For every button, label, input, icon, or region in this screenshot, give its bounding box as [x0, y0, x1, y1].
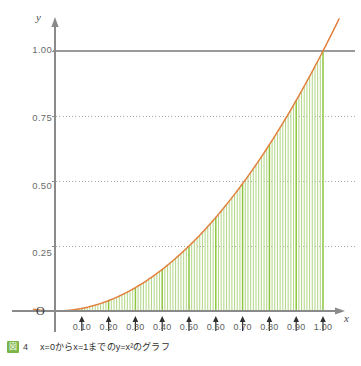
- x-axis-label: x: [344, 312, 349, 324]
- x-tick-label-0.40: 0.40: [147, 322, 177, 332]
- x-tick-label-0.60: 0.60: [201, 322, 231, 332]
- y-tick-label-025: 0.25: [18, 247, 52, 258]
- figure-number: 4: [23, 342, 28, 352]
- chart-plot-area: [0, 0, 361, 336]
- x-tick-label-1.00: 1.00: [308, 322, 338, 332]
- x-tick-label-0.30: 0.30: [120, 322, 150, 332]
- figure-caption-text: x=0からx=1までのy=x²のグラフ: [40, 340, 170, 353]
- figure-container: 1.00 0.75 0.50 0.25 y x O 0.100.200.300.…: [0, 0, 361, 366]
- figure-caption: 図 4 x=0からx=1までのy=x²のグラフ: [7, 340, 170, 354]
- x-tick-label-0.80: 0.80: [254, 322, 284, 332]
- y-axis-label: y: [36, 11, 41, 23]
- y-tick-label-050: 0.50: [18, 180, 52, 191]
- y-tick-label-1: 1.00: [18, 44, 52, 55]
- y-tick-label-075: 0.75: [18, 112, 52, 123]
- origin-label: O: [36, 304, 45, 319]
- figure-badge-icon: 図: [7, 341, 19, 353]
- x-tick-label-0.10: 0.10: [67, 322, 97, 332]
- x-tick-label-0.20: 0.20: [94, 322, 124, 332]
- x-tick-label-0.50: 0.50: [174, 322, 204, 332]
- y-axis-arrowhead: [51, 17, 58, 27]
- x-tick-label-0.70: 0.70: [228, 322, 258, 332]
- chart-svg: [0, 0, 361, 336]
- x-tick-label-0.90: 0.90: [281, 322, 311, 332]
